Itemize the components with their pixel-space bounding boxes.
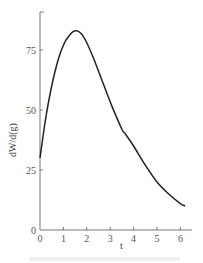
- line-chart: 0255075 0123456 t dW/d(g): [0, 0, 203, 263]
- x-tick-label: 2: [84, 233, 89, 244]
- x-tick-label: 3: [108, 233, 113, 244]
- x-axis-label: t: [120, 240, 123, 251]
- y-tick-label: 75: [26, 45, 36, 56]
- x-tick-label: 0: [38, 233, 43, 244]
- x-tick-label: 5: [155, 233, 160, 244]
- x-tick-label: 6: [178, 233, 183, 244]
- figure-caption-faint: [30, 257, 180, 261]
- data-line: [40, 31, 185, 206]
- y-tick-label: 0: [31, 225, 36, 236]
- x-tick-label: 1: [61, 233, 66, 244]
- y-axis-label: dW/d(g): [7, 123, 19, 157]
- y-tick-label: 25: [26, 165, 36, 176]
- x-tick-label: 4: [131, 233, 136, 244]
- y-tick-label: 50: [26, 105, 36, 116]
